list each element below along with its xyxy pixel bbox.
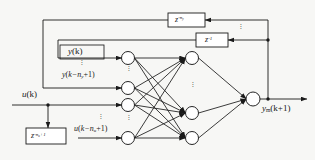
input-neuron [122, 132, 135, 145]
ellipsis-hidden: ··· [190, 82, 196, 88]
hidden-neuron [186, 132, 199, 145]
frame-path-hint [60, 33, 128, 45]
feedback-paths [43, 20, 270, 101]
weight-edge [135, 58, 186, 88]
weight-edge [199, 58, 247, 99]
hidden-neuron [186, 107, 199, 120]
delay-blocks [26, 13, 228, 144]
delay-bottom-label: z-nu+1 [31, 132, 46, 140]
ellipsis-y-taps: ··· [79, 60, 85, 66]
delay-unit-label: z-1 [205, 36, 212, 44]
hidden-to-output-weights [199, 58, 247, 138]
ellipsis-feedback: ··· [238, 24, 244, 30]
ellipsis-input-upper: ··· [126, 66, 132, 72]
label-u-current: u(k) [22, 90, 37, 99]
diagram-canvas [0, 0, 315, 160]
weight-edge [135, 58, 186, 113]
neural-network-diagram: z-ny z-1 z-nu+1 y(k) y(k−ny+1) u(k) u(k−… [0, 0, 315, 160]
input-to-hidden-weights [135, 58, 186, 138]
weight-edge [135, 88, 186, 138]
hidden-neuron [186, 52, 199, 65]
output-neuron [246, 92, 260, 106]
weight-edge [199, 99, 247, 113]
input-neuron [122, 99, 135, 112]
ellipsis-u-taps: ··· [98, 114, 104, 120]
label-u-delayed: u(k−nu+1) [74, 125, 107, 134]
weight-edge [199, 99, 247, 138]
ellipsis-input-lower: ··· [126, 115, 132, 121]
junction-dot-feedback [266, 38, 269, 41]
junction-dot-u [46, 103, 49, 106]
input-neuron [122, 82, 135, 95]
delay-top-label: z-ny [175, 16, 184, 24]
label-output: ym(k+1) [262, 104, 290, 114]
label-y-delayed: y(k−ny+1) [62, 71, 95, 80]
delay-block-top [168, 13, 205, 27]
weight-edge [135, 105, 186, 138]
label-y-current: y(k) [68, 47, 83, 56]
